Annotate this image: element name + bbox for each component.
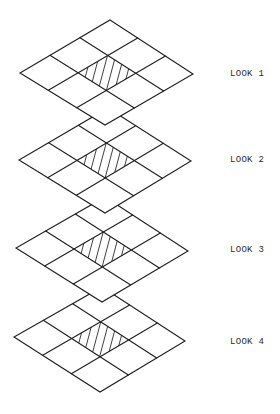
look-label-1: LOOK 1 [230,69,264,79]
grid-plane-1 [20,20,193,125]
look-label-3: LOOK 3 [230,245,264,255]
look-label-4: LOOK 4 [230,337,264,347]
look-label-2: LOOK 2 [230,155,264,165]
grid-plane-4 [14,287,185,392]
grid-outline [20,20,193,125]
stacked-grid-diagram [0,0,280,414]
grid-outline [14,287,185,392]
grid-plane-3 [16,197,188,302]
grid-outline [16,197,188,302]
